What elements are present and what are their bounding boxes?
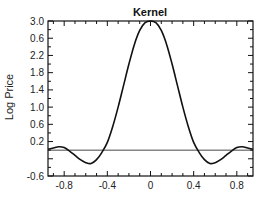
y-tick-label: 2.2 (30, 50, 44, 61)
y-tick-label: 0.2 (30, 136, 44, 147)
x-tick-label: 0 (148, 180, 154, 191)
kernel-curve (48, 21, 253, 164)
y-tick-label: 0.6 (30, 33, 44, 44)
plot-frame (48, 21, 253, 176)
chart-title: Kernel (133, 6, 167, 18)
y-tick-labels: 3.00.62.21.81.41.00.60.2-0.6 (27, 16, 45, 182)
y-tick-label: 1.8 (30, 67, 44, 78)
kernel-chart: Kernel Log Price 3.00.62.21.81.41.00.60.… (0, 0, 261, 199)
x-tick-labels: -0.8-0.400.40.8 (56, 180, 245, 191)
x-tick-label: -0.8 (56, 180, 74, 191)
y-tick-label: 1.4 (30, 84, 44, 95)
y-tick-label: 0.6 (30, 119, 44, 130)
y-tick-label: -0.6 (27, 171, 45, 182)
y-axis-label: Log Price (3, 74, 15, 120)
x-tick-label: -0.4 (99, 180, 117, 191)
y-tick-label: 1.0 (30, 102, 44, 113)
x-tick-label: 0.4 (187, 180, 201, 191)
axis-ticks (48, 21, 253, 176)
y-tick-label: 3.0 (30, 16, 44, 27)
x-tick-label: 0.8 (230, 180, 244, 191)
